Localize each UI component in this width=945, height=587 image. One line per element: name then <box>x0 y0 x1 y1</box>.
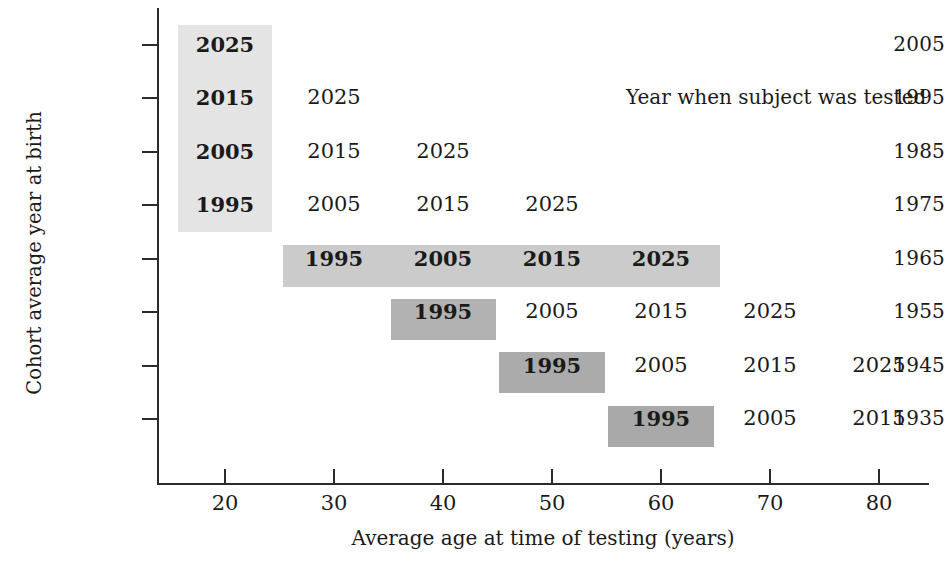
data-cell: 2025 <box>182 34 268 55</box>
data-cell: 2005 <box>727 408 813 429</box>
y-axis-title: Cohort average year at birth <box>25 88 45 418</box>
data-cell: 2005 <box>182 141 268 162</box>
y-tick-label-1955: 1955 <box>853 301 945 321</box>
data-cell: 2015 <box>291 141 377 162</box>
x-axis-title: Average age at time of testing (years) <box>157 527 929 549</box>
legend-note: Year when subject was tested <box>626 86 926 108</box>
x-tick-mark-20 <box>224 469 226 484</box>
data-cell: 1995 <box>509 355 595 376</box>
data-cell: 2015 <box>618 301 704 322</box>
x-tick-mark-80 <box>878 469 880 484</box>
x-tick-label-20: 20 <box>190 493 260 514</box>
x-tick-label-50: 50 <box>517 493 587 514</box>
data-cell: 2015 <box>727 355 813 376</box>
y-tick-label-1975: 1975 <box>853 194 945 214</box>
x-tick-mark-50 <box>551 469 553 484</box>
data-cell: 2015 <box>836 408 922 429</box>
y-tick-label-2005: 2005 <box>853 34 945 54</box>
x-axis-line <box>157 483 929 485</box>
y-tick-mark-1945 <box>142 365 158 367</box>
x-tick-mark-30 <box>333 469 335 484</box>
data-cell: 2025 <box>291 87 377 108</box>
data-cell: 2025 <box>618 248 704 269</box>
x-tick-mark-60 <box>660 469 662 484</box>
y-tick-mark-1975 <box>142 204 158 206</box>
data-cell: 2015 <box>400 194 486 215</box>
data-cell: 2005 <box>400 248 486 269</box>
data-cell: 2005 <box>291 194 377 215</box>
data-cell: 2025 <box>509 194 595 215</box>
data-cell: 2005 <box>509 301 595 322</box>
data-cell: 2005 <box>618 355 704 376</box>
x-tick-mark-70 <box>769 469 771 484</box>
y-tick-mark-1985 <box>142 151 158 153</box>
y-tick-label-1965: 1965 <box>853 248 945 268</box>
data-cell: 2025 <box>727 301 813 322</box>
y-tick-label-1985: 1985 <box>853 141 945 161</box>
data-cell: 1995 <box>291 248 377 269</box>
x-tick-label-80: 80 <box>844 493 914 514</box>
x-tick-label-60: 60 <box>626 493 696 514</box>
data-cell: 1995 <box>618 408 704 429</box>
data-cell: 2025 <box>400 141 486 162</box>
x-tick-label-30: 30 <box>299 493 369 514</box>
data-cell: 2015 <box>182 87 268 108</box>
data-cell: 2015 <box>509 248 595 269</box>
data-cell: 1995 <box>182 194 268 215</box>
y-axis-line <box>157 8 159 484</box>
data-cell: 1995 <box>400 301 486 322</box>
chart-container: 2005 1995 1985 1975 1965 1955 1945 1935 … <box>0 0 945 587</box>
x-tick-mark-40 <box>442 469 444 484</box>
x-tick-label-40: 40 <box>408 493 478 514</box>
y-tick-mark-1995 <box>142 97 158 99</box>
data-cell: 2025 <box>836 355 922 376</box>
y-tick-mark-2005 <box>142 44 158 46</box>
y-tick-mark-1935 <box>142 418 158 420</box>
x-tick-label-70: 70 <box>735 493 805 514</box>
y-tick-mark-1965 <box>142 258 158 260</box>
y-tick-mark-1955 <box>142 311 158 313</box>
